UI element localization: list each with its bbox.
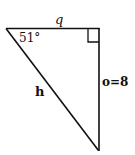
triangle-diagram: 51° q o=8 h	[0, 0, 135, 155]
triangle	[6, 28, 100, 151]
angle-label: 51°	[19, 31, 40, 45]
hypotenuse-label: h	[35, 84, 45, 99]
adjacent-label: q	[55, 12, 63, 27]
right-angle-marker	[88, 29, 99, 43]
opposite-label: o=8	[102, 75, 128, 89]
hypotenuse	[6, 29, 99, 151]
